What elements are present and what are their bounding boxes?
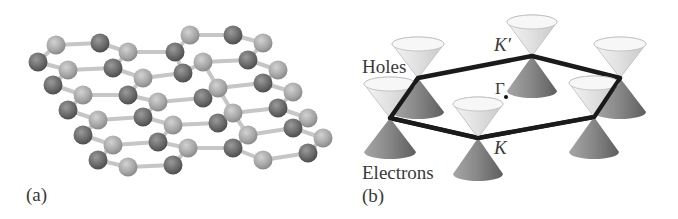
k-prime-label: K′ (494, 35, 511, 54)
k-label: K (494, 138, 507, 157)
gamma-label: Γ (495, 80, 505, 97)
electrons-label: Electrons (362, 163, 434, 182)
panel-b-label: (b) (362, 186, 384, 205)
holes-label: Holes (362, 57, 406, 76)
figure-canvas (0, 0, 678, 219)
graphene-lattice (29, 26, 333, 177)
panel-a-label: (a) (26, 185, 47, 204)
